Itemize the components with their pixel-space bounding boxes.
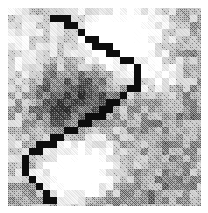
grayscale-raster-canvas	[8, 8, 201, 206]
image-viewport: Pixelated grayscale field with black sig…	[0, 0, 208, 213]
raster-image-frame	[8, 8, 201, 206]
